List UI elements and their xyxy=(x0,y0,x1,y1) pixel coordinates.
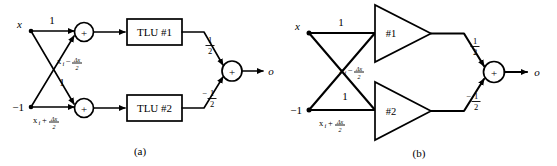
output-label: o xyxy=(534,66,540,78)
expr-upper-frac-denominator: 2 xyxy=(76,65,79,71)
expr-lower-op: + xyxy=(42,115,47,125)
expr-upper-sub: i xyxy=(345,69,347,76)
output-label: o xyxy=(268,65,274,77)
tlu-1-label: TLU #1 xyxy=(137,26,172,38)
input-label-x: x xyxy=(294,20,300,32)
panel-a: + + TLU #1 TLU #2 + o x −1 1 1 x i − xyxy=(0,0,279,166)
expr-lower-sub: i xyxy=(325,122,327,129)
expression-lower: x i + Δx 2 xyxy=(33,115,59,130)
expr-lower-sub: i xyxy=(39,119,41,126)
output-weight-bottom: − 1 2 xyxy=(467,91,481,112)
output-weight-bottom-denominator: 2 xyxy=(474,102,478,112)
output-weight-bottom-denominator: 2 xyxy=(210,99,214,109)
output-weight-top-denominator: 2 xyxy=(473,47,477,57)
expr-lower-op: + xyxy=(328,118,333,128)
expr-lower-frac-numerator: Δx xyxy=(336,119,344,125)
panel-b-caption: (b) xyxy=(413,147,426,160)
input-label-minus-one: −1 xyxy=(12,101,24,113)
amplifier-2-label: #2 xyxy=(386,106,397,117)
expr-upper-op: − xyxy=(66,56,71,66)
summer-bottom-symbol: + xyxy=(80,103,87,115)
summer-output-symbol: + xyxy=(490,67,497,79)
weight-label-cross-one: 1 xyxy=(342,90,348,102)
weight-label-top-one: 1 xyxy=(49,14,55,26)
expr-lower-frac-denominator: 2 xyxy=(53,124,56,130)
expr-upper-sub: i xyxy=(63,60,65,67)
panel-b: #1 #2 + o x −1 1 1 x i − Δx 2 x xyxy=(279,0,557,166)
output-weight-top: 1 2 xyxy=(471,36,480,57)
output-weight-bottom-numerator: 1 xyxy=(474,91,478,101)
tlu-2-label: TLU #2 xyxy=(137,102,172,114)
expression-upper: x i − Δx 2 xyxy=(339,65,364,80)
expr-upper-frac-numerator: Δx xyxy=(355,66,363,72)
input-label-x: x xyxy=(16,18,22,30)
output-weight-bottom-sign: − xyxy=(203,88,208,98)
expr-lower-frac-denominator: 2 xyxy=(339,127,342,133)
amplifier-1 xyxy=(375,5,431,62)
expr-lower-frac-numerator: Δx xyxy=(50,116,58,122)
expression-upper: x i − Δx 2 xyxy=(57,56,82,71)
expr-lower-var: x xyxy=(33,115,38,125)
wire-minus-one-to-top-summer xyxy=(31,36,74,107)
wire-tlu1-to-output-summer xyxy=(182,32,223,65)
weight-label-top-one: 1 xyxy=(338,16,344,28)
summer-output-symbol: + xyxy=(228,66,235,78)
weight-label-cross-one: 1 xyxy=(59,76,65,88)
expr-upper-op: − xyxy=(348,65,353,75)
expr-upper-frac-numerator: Δx xyxy=(73,57,81,63)
panel-a-caption: (a) xyxy=(134,145,147,158)
expression-lower: x i + Δx 2 xyxy=(319,118,345,133)
amplifier-2 xyxy=(375,82,431,140)
output-weight-top-denominator: 2 xyxy=(208,46,212,56)
wire-x-to-bottom-summer xyxy=(31,31,74,104)
figure-container: + + TLU #1 TLU #2 + o x −1 1 1 x i − xyxy=(0,0,557,166)
input-label-minus-one: −1 xyxy=(290,104,302,116)
output-weight-bottom-sign: − xyxy=(467,91,472,101)
amplifier-1-label: #1 xyxy=(386,28,397,39)
output-weight-bottom-numerator: 1 xyxy=(210,88,214,98)
summer-top-symbol: + xyxy=(80,27,87,39)
output-weight-top-numerator: 1 xyxy=(208,35,212,45)
expr-lower-var: x xyxy=(319,118,324,128)
expr-upper-frac-denominator: 2 xyxy=(358,74,361,80)
output-weight-top-numerator: 1 xyxy=(473,36,477,46)
